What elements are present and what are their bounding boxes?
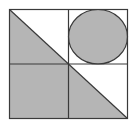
top-right-inscribed-circle	[69, 10, 128, 65]
bottom-left-shaded-square	[10, 64, 69, 119]
geometry-diagram	[0, 0, 133, 126]
